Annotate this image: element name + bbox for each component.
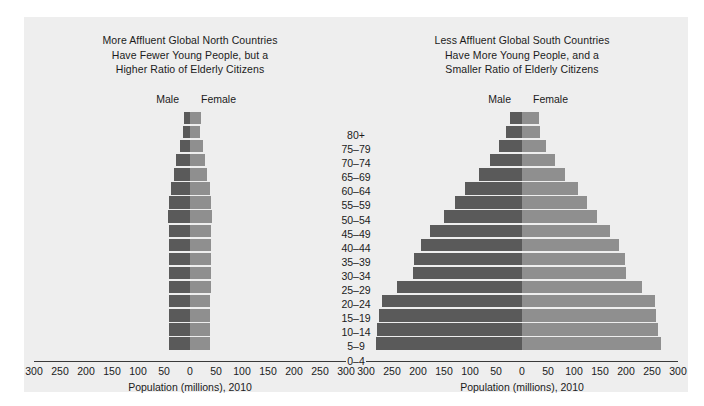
bar-male bbox=[379, 309, 522, 321]
pyramid-row bbox=[34, 196, 346, 210]
bar-male bbox=[421, 239, 522, 251]
title-line-2: Have Fewer Young People, but a bbox=[24, 48, 356, 63]
legend-label-male: Male bbox=[156, 93, 179, 105]
bar-male bbox=[510, 112, 522, 124]
pyramid-row bbox=[366, 266, 678, 280]
x-axis-label-global-south: Population (millions), 2010 bbox=[356, 381, 688, 393]
x-axis-tick: 50 bbox=[210, 365, 222, 377]
bar-female bbox=[522, 112, 539, 124]
bar-female bbox=[190, 182, 210, 194]
title-line-1: More Affluent Global North Countries bbox=[24, 33, 356, 48]
pyramid-row bbox=[366, 294, 678, 308]
x-axis-tick: 150 bbox=[259, 365, 277, 377]
bar-male bbox=[479, 168, 522, 180]
pyramid-row bbox=[366, 238, 678, 252]
bar-male bbox=[169, 253, 190, 265]
x-axis-tick: 300 bbox=[669, 365, 687, 377]
pyramid-row bbox=[34, 125, 346, 139]
pyramid-row bbox=[366, 153, 678, 167]
bar-male bbox=[169, 239, 190, 251]
chart-global-north: More Affluent Global North Countries Hav… bbox=[24, 17, 356, 392]
bar-female bbox=[522, 210, 597, 222]
bar-male bbox=[499, 140, 522, 152]
bar-male bbox=[455, 196, 522, 208]
x-axis-tick: 100 bbox=[233, 365, 251, 377]
title-line-2: Have More Young People, and a bbox=[356, 48, 688, 63]
bar-male bbox=[413, 267, 522, 279]
bar-male bbox=[169, 295, 190, 307]
x-axis-tick: 50 bbox=[158, 365, 170, 377]
bar-male bbox=[169, 337, 190, 349]
bar-male bbox=[169, 267, 190, 279]
bar-female bbox=[522, 337, 661, 349]
bar-male bbox=[169, 196, 190, 208]
pyramid-row bbox=[366, 111, 678, 125]
x-axis-tick: 200 bbox=[77, 365, 95, 377]
bar-male bbox=[444, 210, 522, 222]
age-group-label: 55–59 bbox=[329, 198, 383, 212]
pyramid-row bbox=[34, 111, 346, 125]
age-group-label: 35–39 bbox=[329, 255, 383, 269]
x-axis-tick: 150 bbox=[435, 365, 453, 377]
bar-female bbox=[522, 196, 587, 208]
bar-female bbox=[190, 295, 210, 307]
bar-female bbox=[522, 295, 655, 307]
age-group-label: 45–49 bbox=[329, 227, 383, 241]
chart-title-global-north: More Affluent Global North Countries Hav… bbox=[24, 33, 356, 77]
bar-female bbox=[190, 309, 210, 321]
bar-female bbox=[522, 239, 619, 251]
x-axis-tick: 150 bbox=[103, 365, 121, 377]
bar-female bbox=[190, 112, 201, 124]
pyramid-row bbox=[34, 294, 346, 308]
bar-female bbox=[522, 126, 540, 138]
pyramid-row bbox=[366, 308, 678, 322]
age-group-label: 5–9 bbox=[329, 339, 383, 353]
x-axis-tick: 200 bbox=[409, 365, 427, 377]
pyramid-row bbox=[366, 196, 678, 210]
bar-female bbox=[190, 140, 203, 152]
pyramid-row bbox=[34, 322, 346, 336]
pyramid-row bbox=[366, 322, 678, 336]
plot-area-global-south bbox=[366, 111, 678, 351]
bar-female bbox=[522, 253, 625, 265]
bar-male bbox=[490, 154, 522, 166]
bar-male bbox=[174, 168, 190, 180]
title-line-1: Less Affluent Global South Countries bbox=[356, 33, 688, 48]
x-axis-tick: 0 bbox=[187, 365, 193, 377]
bar-male bbox=[430, 225, 522, 237]
title-line-3: Higher Ratio of Elderly Citizens bbox=[24, 62, 356, 77]
bar-male bbox=[168, 210, 190, 222]
x-axis-tick: 100 bbox=[129, 365, 147, 377]
age-group-label: 40–44 bbox=[329, 241, 383, 255]
age-group-label: 70–74 bbox=[329, 156, 383, 170]
bar-female bbox=[522, 154, 555, 166]
pyramid-row bbox=[366, 210, 678, 224]
figure-panel: More Affluent Global North Countries Hav… bbox=[24, 17, 688, 392]
bar-female bbox=[522, 182, 578, 194]
age-group-label: 25–29 bbox=[329, 283, 383, 297]
x-axis-tick: 250 bbox=[643, 365, 661, 377]
bar-male bbox=[397, 281, 522, 293]
bar-male bbox=[376, 337, 522, 349]
bar-female bbox=[190, 196, 211, 208]
bar-male bbox=[169, 225, 190, 237]
bar-female bbox=[190, 323, 210, 335]
pyramid-row bbox=[34, 210, 346, 224]
x-axis-tick: 300 bbox=[25, 365, 43, 377]
x-axis-tick: 200 bbox=[617, 365, 635, 377]
age-group-label: 75–79 bbox=[329, 142, 383, 156]
age-group-label: 15–19 bbox=[329, 311, 383, 325]
bar-female bbox=[522, 140, 546, 152]
x-axis-tick: 150 bbox=[591, 365, 609, 377]
pyramid-row bbox=[34, 280, 346, 294]
age-group-label: 0–4 bbox=[329, 354, 383, 368]
bar-male bbox=[465, 182, 522, 194]
pyramid-row bbox=[34, 167, 346, 181]
pyramid-row bbox=[34, 139, 346, 153]
bar-male bbox=[180, 140, 190, 152]
legend-label-male: Male bbox=[488, 93, 511, 105]
x-axis-tick: 250 bbox=[383, 365, 401, 377]
x-axis-ticks-global-north: 30025020015010050050100150200250300 bbox=[24, 365, 356, 379]
pyramid-row bbox=[366, 139, 678, 153]
bar-female bbox=[522, 267, 626, 279]
